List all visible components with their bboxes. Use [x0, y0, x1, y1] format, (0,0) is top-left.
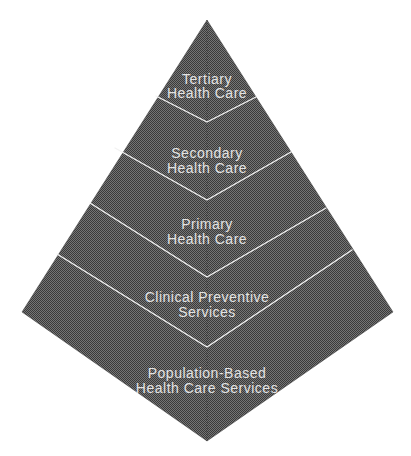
- level-5-label-line-2: Health Care Services: [136, 380, 278, 396]
- level-3-label-line-2: Health Care: [167, 231, 247, 247]
- health-care-pyramid-diagram: Tertiary Health Care Secondary Health Ca…: [0, 0, 411, 456]
- level-2-label-line-2: Health Care: [167, 160, 247, 176]
- level-4-label-line-1: Clinical Preventive: [145, 289, 270, 305]
- level-1-label-line-2: Health Care: [167, 85, 247, 101]
- level-4-label-line-2: Services: [178, 304, 236, 320]
- level-2-label-line-1: Secondary: [171, 145, 242, 161]
- level-3-label-line-1: Primary: [181, 216, 233, 232]
- pyramid-svg: Tertiary Health Care Secondary Health Ca…: [0, 0, 411, 456]
- level-5-label-line-1: Population-Based: [148, 365, 267, 381]
